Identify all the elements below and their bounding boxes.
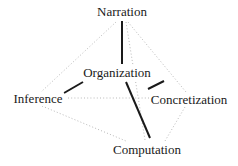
edge-narration-inference bbox=[41, 22, 116, 92]
edge-organization-computation bbox=[126, 82, 150, 138]
edge-organization-inference bbox=[64, 82, 83, 93]
node-computation[interactable]: Computation bbox=[112, 143, 182, 157]
edge-concretization-computation bbox=[165, 107, 185, 141]
diagram-canvas: Narration Organization Inference Concret… bbox=[0, 0, 238, 166]
node-organization[interactable]: Organization bbox=[82, 66, 152, 80]
edge-inference-computation bbox=[42, 106, 126, 141]
node-narration[interactable]: Narration bbox=[96, 5, 148, 19]
node-concretization[interactable]: Concretization bbox=[150, 93, 229, 107]
edge-narration-concretization bbox=[128, 22, 186, 92]
node-inference[interactable]: Inference bbox=[12, 92, 63, 106]
edge-organization-concretization bbox=[148, 81, 164, 89]
